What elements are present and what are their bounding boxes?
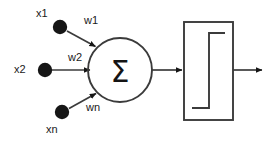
weight-label-wn: wn <box>85 101 100 113</box>
weight-label-w1: w1 <box>83 14 98 26</box>
neuron-diagram: x1 w1 x2 w2 xn wn Σ <box>0 0 273 143</box>
input-node-x1[interactable] <box>53 20 67 34</box>
step-function-icon <box>192 33 225 108</box>
input-label-xn: xn <box>46 123 58 135</box>
input-node-xn[interactable] <box>55 105 69 119</box>
neuron-diagram-canvas: x1 w1 x2 w2 xn wn Σ <box>0 0 273 143</box>
weight-label-w2: w2 <box>67 51 82 63</box>
input-label-x1: x1 <box>36 7 48 19</box>
input-node-x2[interactable] <box>38 63 52 77</box>
connection-arrow-w1 <box>67 31 96 47</box>
input-label-x2: x2 <box>14 63 26 75</box>
summation-symbol: Σ <box>111 54 130 89</box>
